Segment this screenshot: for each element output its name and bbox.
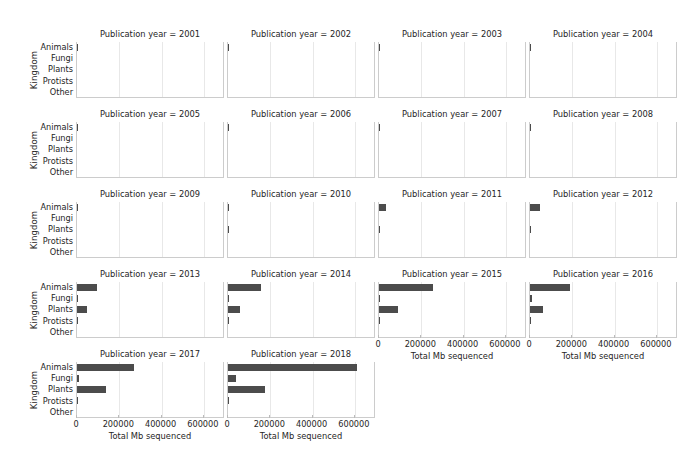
x-tick-label: 600000: [640, 339, 671, 349]
facet-grid-figure: Publication year = 2001AnimalsFungiPlant…: [0, 0, 700, 463]
bar-slot-protists: [530, 77, 676, 84]
bar-slot-plants: [379, 226, 525, 233]
x-tick-label: 0: [224, 419, 229, 429]
x-axis-2015: 0200000400000600000Total Mb sequenced: [378, 338, 526, 364]
bar-slot-other: [379, 248, 525, 255]
bar-plants-2017: [77, 386, 106, 393]
y-axis-label: Kingdom: [2, 282, 66, 338]
plot-area-2002: [227, 42, 375, 98]
bar-protists-2018: [228, 397, 229, 404]
x-tick-label: 600000: [187, 419, 218, 429]
x-tick-mark: [420, 335, 421, 338]
x-axis-label: Total Mb sequenced: [227, 431, 375, 441]
x-tick-label: 400000: [145, 419, 176, 429]
bar-protists-2014: [228, 317, 229, 324]
panel-title-2003: Publication year = 2003: [378, 29, 526, 39]
bar-slot-other: [379, 168, 525, 175]
bar-slot-fungi: [530, 55, 676, 62]
bar-slot-other: [530, 88, 676, 95]
x-tick-mark: [614, 335, 615, 338]
bar-animals-2013: [77, 284, 97, 291]
bar-plants-2014: [228, 306, 240, 313]
panel-title-2014: Publication year = 2014: [227, 269, 375, 279]
facet-panel-2016: Publication year = 201602000004000006000…: [529, 282, 677, 338]
bar-slot-other: [530, 248, 676, 255]
bar-slot-other: [228, 168, 374, 175]
bar-slot-fungi: [530, 295, 676, 302]
bar-group: [530, 282, 676, 337]
facet-panel-2003: Publication year = 2003: [378, 42, 526, 98]
bar-slot-fungi: [77, 375, 223, 382]
bar-slot-plants: [77, 386, 223, 393]
bar-slot-animals: [228, 364, 374, 371]
x-tick-mark: [354, 415, 355, 418]
x-tick-label: 0: [375, 339, 380, 349]
facet-panel-2008: Publication year = 2008: [529, 122, 677, 178]
bar-slot-animals: [77, 204, 223, 211]
bar-fungi-2017: [77, 375, 79, 382]
x-tick-label: 200000: [103, 419, 134, 429]
bar-plants-2011: [379, 226, 380, 233]
x-tick-mark: [312, 415, 313, 418]
bar-slot-other: [77, 408, 223, 415]
bar-slot-animals: [77, 284, 223, 291]
bar-slot-plants: [77, 306, 223, 313]
x-tick-label: 600000: [489, 339, 520, 349]
bar-slot-other: [530, 328, 676, 335]
panel-title-2012: Publication year = 2012: [529, 189, 677, 199]
bar-slot-fungi: [530, 135, 676, 142]
plot-area-2011: [378, 202, 526, 258]
bar-slot-protists: [77, 157, 223, 164]
bar-fungi-2013: [77, 295, 78, 302]
panel-title-2015: Publication year = 2015: [378, 269, 526, 279]
bar-slot-animals: [228, 124, 374, 131]
panel-title-2017: Publication year = 2017: [76, 349, 224, 359]
bar-group: [77, 202, 223, 257]
panel-title-2018: Publication year = 2018: [227, 349, 375, 359]
x-tick-mark: [203, 415, 204, 418]
y-axis-label: Kingdom: [2, 362, 66, 418]
bar-slot-other: [228, 408, 374, 415]
bar-slot-protists: [530, 317, 676, 324]
facet-panel-2017: Publication year = 2017AnimalsFungiPlant…: [76, 362, 224, 418]
plot-area-2013: [76, 282, 224, 338]
x-tick-mark: [161, 415, 162, 418]
x-tick-mark: [571, 335, 572, 338]
bar-slot-fungi: [228, 135, 374, 142]
bar-protists-2013: [77, 317, 78, 324]
x-tick-label: 0: [526, 339, 531, 349]
plot-area-2014: [227, 282, 375, 338]
bar-slot-other: [228, 328, 374, 335]
facet-panel-2015: Publication year = 201502000004000006000…: [378, 282, 526, 338]
bar-slot-protists: [228, 317, 374, 324]
bar-group: [530, 202, 676, 257]
bar-slot-fungi: [379, 135, 525, 142]
x-axis-label: Total Mb sequenced: [378, 351, 526, 361]
bar-fungi-2018: [228, 375, 236, 382]
bar-plants-2013: [77, 306, 87, 313]
x-tick-mark: [529, 335, 530, 338]
plot-area-2009: [76, 202, 224, 258]
x-tick-label: 200000: [556, 339, 587, 349]
bar-protists-2015: [379, 317, 380, 324]
bar-slot-fungi: [228, 55, 374, 62]
bar-slot-animals: [379, 124, 525, 131]
facet-panel-2012: Publication year = 2012: [529, 202, 677, 258]
bar-animals-2010: [228, 204, 229, 211]
bar-animals-2006: [228, 124, 229, 131]
bar-animals-2011: [379, 204, 386, 211]
x-tick-mark: [269, 415, 270, 418]
plot-area-2007: [378, 122, 526, 178]
bar-slot-plants: [530, 146, 676, 153]
panel-title-2005: Publication year = 2005: [76, 109, 224, 119]
bar-slot-fungi: [77, 55, 223, 62]
plot-area-2010: [227, 202, 375, 258]
bar-slot-plants: [77, 146, 223, 153]
bar-animals-2017: [77, 364, 134, 371]
bar-slot-other: [379, 328, 525, 335]
plot-area-2017: [76, 362, 224, 418]
plot-area-2004: [529, 42, 677, 98]
x-tick-mark: [227, 415, 228, 418]
bar-animals-2012: [530, 204, 540, 211]
plot-area-2016: [529, 282, 677, 338]
